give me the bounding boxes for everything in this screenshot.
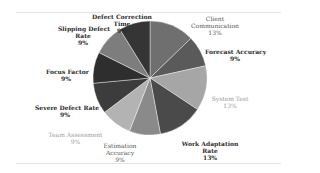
label-value: 9% [58, 39, 108, 46]
label-value: 9% [100, 156, 140, 163]
label-value: 9% [46, 75, 86, 82]
label-system-test: System Test 13% [205, 95, 255, 109]
label-value: 13% [190, 29, 240, 36]
label-estimation-accuracy: Estimation Accuracy 9% [100, 142, 140, 163]
label-line: Work Adaptation [180, 140, 240, 147]
label-line: Severe Defect Rate [35, 104, 95, 111]
label-client-communication: Client Communication 13% [190, 15, 240, 36]
label-focus-factor: Focus Factor 9% [46, 68, 86, 82]
label-line: Forecast Accuracy [205, 48, 265, 55]
label-line: Time [92, 20, 152, 27]
label-line: Communication [190, 22, 240, 29]
label-value: 9% [205, 55, 265, 62]
label-line: Focus Factor [46, 68, 86, 75]
label-line: Rate [180, 147, 240, 154]
label-line: Defect Correction [92, 13, 152, 20]
label-value: 13% [205, 102, 255, 109]
label-work-adaptation-rate: Work Adaptation Rate 13% [180, 140, 240, 161]
label-team-assessment: Team Assessment 9% [48, 131, 103, 145]
label-line: Accuracy [100, 149, 140, 156]
label-severe-defect-rate: Severe Defect Rate 9% [35, 104, 95, 118]
label-forecast-accuracy: Forecast Accuracy 9% [205, 48, 265, 62]
label-line: Team Assessment [48, 131, 103, 138]
label-line: System Test [205, 95, 255, 102]
label-value: 9% [92, 27, 152, 34]
label-line: Client [190, 15, 240, 22]
label-value: 13% [180, 154, 240, 161]
label-value: 9% [48, 138, 103, 145]
label-defect-correction-time: Defect Correction Time 9% [92, 13, 152, 34]
label-line: Estimation [100, 142, 140, 149]
label-value: 9% [35, 111, 95, 118]
